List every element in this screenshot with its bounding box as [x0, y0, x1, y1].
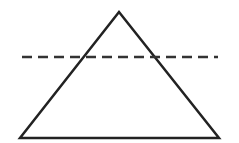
triangle-diagram	[0, 0, 239, 143]
triangle	[20, 12, 219, 138]
